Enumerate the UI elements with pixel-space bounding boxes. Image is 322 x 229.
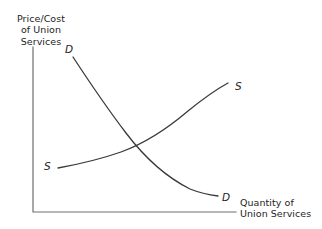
x-axis-title: Quantity of Union Services (240, 197, 322, 220)
supply-demand-chart: Price/Cost of Union Services Quantity of… (0, 0, 322, 229)
supply-curve-label-right: S (235, 81, 242, 92)
demand-curve-label-bottom: D (222, 192, 230, 203)
chart-axes (33, 47, 236, 212)
supply-curve (58, 83, 228, 168)
demand-curve (73, 57, 218, 196)
demand-curve-label-top: D (65, 44, 73, 55)
supply-curve-label-left: S (44, 161, 51, 172)
